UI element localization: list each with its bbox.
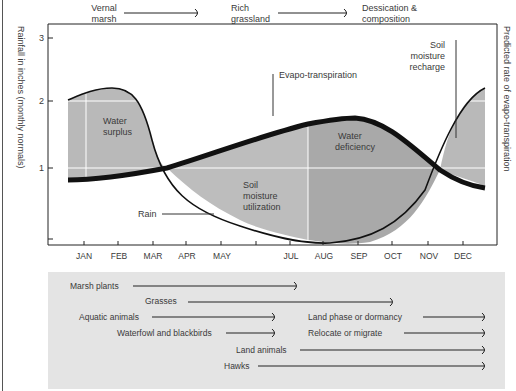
y-axis-ticks: 3 2 1	[39, 33, 53, 239]
timeline-row-marsh-plants: Marsh plants	[70, 281, 297, 291]
svg-text:utilization: utilization	[243, 202, 281, 212]
svg-text:Rich: Rich	[231, 3, 249, 13]
svg-text:moisture: moisture	[410, 51, 445, 61]
svg-text:AUG: AUG	[315, 251, 333, 261]
svg-text:Land animals: Land animals	[236, 345, 287, 355]
svg-text:Water: Water	[338, 131, 362, 141]
svg-text:Soil: Soil	[243, 180, 258, 190]
soil-moisture-recharge-label: Soil moisture recharge	[409, 40, 456, 138]
y-axis-right-label: Predicted rate of evapo-transpiration	[502, 26, 512, 172]
svg-text:NOV: NOV	[420, 251, 439, 261]
svg-text:composition: composition	[362, 14, 410, 24]
svg-text:Vernal: Vernal	[91, 3, 117, 13]
timeline-row-waterfowl: Waterfowl and blackbirds Relocate or mig…	[117, 328, 485, 338]
svg-text:MAR: MAR	[144, 251, 163, 261]
svg-text:Water: Water	[103, 116, 127, 126]
soil-moisture-utilization-region	[167, 124, 308, 240]
svg-text:MAY: MAY	[213, 251, 231, 261]
svg-text:Hawks: Hawks	[224, 361, 250, 371]
arrow-icon	[278, 9, 347, 17]
x-axis-month-labels: JAN FEB MAR APR MAY JUL AUG SEP OCT NOV …	[76, 251, 472, 261]
svg-text:Land phase or dormancy: Land phase or dormancy	[308, 312, 403, 322]
y-axis-left-label: Rainfall in inches (monthly normals)	[16, 26, 26, 169]
water-deficiency-region	[308, 118, 440, 244]
svg-text:Marsh plants: Marsh plants	[70, 281, 119, 291]
stage-vernal-marsh: Vernal marsh	[91, 3, 117, 24]
water-balance-chart: Vernal marsh Rich grassland Dessication …	[0, 0, 516, 272]
timeline-row-land-animals: Land animals	[236, 345, 485, 355]
svg-text:Waterfowl and blackbirds: Waterfowl and blackbirds	[117, 328, 212, 338]
svg-text:3: 3	[39, 33, 44, 43]
svg-text:1: 1	[39, 163, 44, 173]
svg-text:JAN: JAN	[76, 251, 92, 261]
evapo-transpiration-label: Evapo-transpiration	[273, 70, 357, 116]
svg-text:surplus: surplus	[103, 127, 133, 137]
timeline-row-aquatic-animals: Aquatic animals Land phase or dormancy	[79, 312, 485, 322]
svg-text:deficiency: deficiency	[335, 142, 376, 152]
organism-timeline-panel: Marsh plants Grasses Aquatic animals Lan…	[48, 272, 505, 389]
svg-text:JUL: JUL	[283, 251, 298, 261]
stage-rich-grassland: Rich grassland	[231, 3, 270, 24]
svg-text:FEB: FEB	[111, 251, 128, 261]
stage-dessication: Dessication & composition	[362, 3, 417, 24]
svg-text:moisture: moisture	[243, 191, 278, 201]
svg-text:Aquatic animals: Aquatic animals	[79, 312, 139, 322]
svg-text:Relocate or migrate: Relocate or migrate	[308, 328, 382, 338]
svg-text:APR: APR	[178, 251, 195, 261]
svg-text:2: 2	[39, 96, 44, 106]
x-axis-ticks	[84, 241, 463, 245]
svg-text:OCT: OCT	[384, 251, 402, 261]
svg-text:SEP: SEP	[350, 251, 367, 261]
svg-text:recharge: recharge	[409, 62, 445, 72]
svg-text:Grasses: Grasses	[145, 296, 177, 306]
arrow-icon	[124, 9, 198, 17]
svg-text:Dessication &: Dessication &	[362, 3, 417, 13]
svg-text:DEC: DEC	[454, 251, 472, 261]
svg-text:grassland: grassland	[231, 14, 270, 24]
timeline-row-hawks: Hawks	[224, 361, 485, 371]
svg-text:Rain: Rain	[138, 209, 157, 219]
svg-text:marsh: marsh	[91, 14, 116, 24]
svg-text:Soil: Soil	[430, 40, 445, 50]
timeline-row-grasses: Grasses	[145, 296, 393, 306]
svg-text:Evapo-transpiration: Evapo-transpiration	[279, 70, 357, 80]
